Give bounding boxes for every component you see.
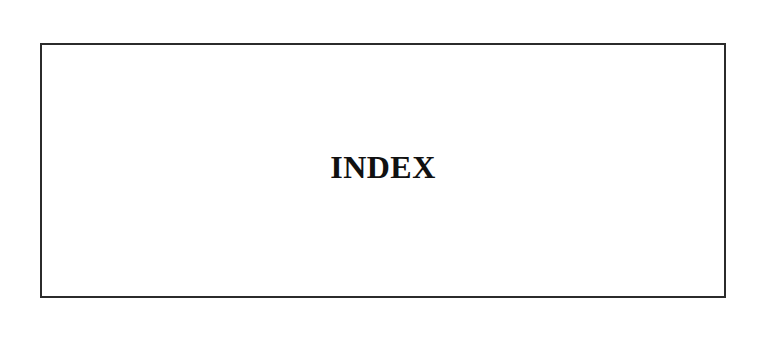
index-frame-box: INDEX [40, 43, 726, 298]
scanned-page-surface: INDEX [0, 0, 761, 361]
page-title: INDEX [42, 151, 724, 183]
